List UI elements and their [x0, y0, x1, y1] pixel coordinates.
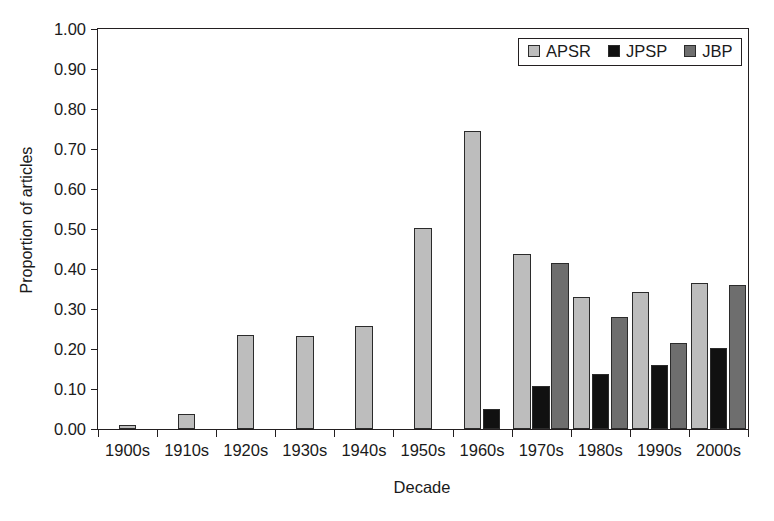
x-axis-tick-label: 1960s [460, 442, 505, 459]
bar-apsr-1980s [573, 297, 591, 429]
x-axis-tick-label: 1980s [578, 442, 623, 459]
x-axis-tick-mark [98, 429, 99, 437]
x-axis-tick-label: 1940s [341, 442, 386, 459]
bar-apsr-1920s [237, 335, 255, 429]
x-axis-tick-label: 1900s [105, 442, 150, 459]
x-axis-tick-mark [157, 429, 158, 437]
x-axis-tick-mark [512, 429, 513, 437]
x-axis-tick-mark [275, 429, 276, 437]
x-axis-tick-mark [571, 429, 572, 437]
plot-area: 0.000.100.200.300.400.500.600.700.800.90… [97, 28, 749, 430]
x-axis-tick-label: 2000s [696, 442, 741, 459]
legend-swatch-icon [528, 45, 540, 57]
legend-item-label: APSR [546, 43, 591, 60]
x-axis-tick-mark [453, 429, 454, 437]
x-axis-tick-mark [630, 429, 631, 437]
y-axis-tick-label: 0.20 [6, 341, 98, 358]
bar-jpsp-1980s [592, 374, 610, 429]
x-axis-tick-mark [334, 429, 335, 437]
x-axis-title: Decade [97, 478, 747, 497]
x-axis-tick-label: 1950s [401, 442, 446, 459]
legend-swatch-icon [608, 45, 620, 57]
bar-jbp-1990s [670, 343, 688, 429]
bar-apsr-1910s [178, 414, 196, 429]
bar-apsr-1940s [355, 326, 373, 429]
legend-item-label: JPSP [626, 43, 667, 60]
legend-item-label: JBP [702, 43, 732, 60]
y-axis-tick-label: 0.00 [6, 421, 98, 438]
chart-legend: APSRJPSPJBP [518, 38, 742, 66]
x-axis-tick-label: 1990s [637, 442, 682, 459]
x-axis-tick-mark [748, 429, 749, 437]
y-axis-tick-label: 0.80 [6, 101, 98, 118]
bar-jbp-1970s [551, 263, 569, 429]
bar-jpsp-1960s [483, 409, 501, 429]
bar-jbp-1980s [611, 317, 629, 429]
bar-jbp-2000s [729, 285, 747, 429]
bar-apsr-1960s [464, 131, 482, 429]
x-axis-tick-mark [216, 429, 217, 437]
bar-apsr-1950s [414, 228, 432, 429]
x-axis-tick-mark [393, 429, 394, 437]
legend-item-apsr: APSR [528, 43, 591, 60]
bar-apsr-2000s [691, 283, 709, 429]
x-axis-tick-label: 1930s [282, 442, 327, 459]
x-axis-tick-label: 1970s [519, 442, 564, 459]
bar-apsr-1990s [632, 292, 650, 429]
bar-apsr-1970s [513, 254, 531, 429]
x-axis-tick-mark [689, 429, 690, 437]
legend-item-jbp: JBP [684, 43, 732, 60]
bar-apsr-1900s [119, 425, 137, 429]
legend-item-jpsp: JPSP [608, 43, 667, 60]
bar-jpsp-1990s [651, 365, 669, 429]
y-axis-tick-label: 0.50 [6, 221, 98, 238]
bar-apsr-1930s [296, 336, 314, 429]
y-axis-tick-label: 1.00 [6, 21, 98, 38]
y-axis-tick-label: 0.60 [6, 181, 98, 198]
bar-jpsp-1970s [532, 386, 550, 429]
y-axis-tick-label: 0.70 [6, 141, 98, 158]
x-axis-tick-label: 1910s [164, 442, 209, 459]
x-axis-tick-label: 1920s [223, 442, 268, 459]
bar-chart-figure: Proportion of articles 0.000.100.200.300… [0, 0, 774, 521]
y-axis-tick-label: 0.40 [6, 261, 98, 278]
legend-swatch-icon [684, 45, 696, 57]
bar-jpsp-2000s [710, 348, 728, 429]
y-axis-tick-label: 0.10 [6, 381, 98, 398]
y-axis-tick-label: 0.90 [6, 61, 98, 78]
y-axis-tick-label: 0.30 [6, 301, 98, 318]
